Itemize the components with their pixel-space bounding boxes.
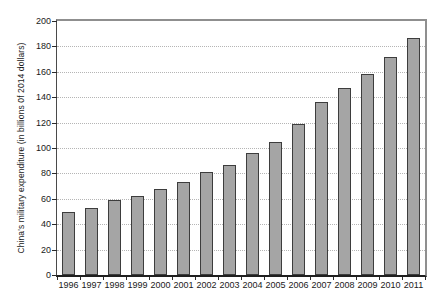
gridline (57, 72, 425, 73)
bar-1997 (85, 208, 98, 275)
y-tick-mark (52, 97, 57, 98)
bar-2005 (269, 142, 282, 275)
x-tick-mark (425, 277, 426, 280)
y-tick-label: 40 (15, 218, 51, 230)
y-tick-mark (52, 72, 57, 73)
y-tick-mark (52, 21, 57, 22)
x-tick-mark (57, 277, 58, 280)
y-tick-label: 200 (15, 15, 51, 27)
y-tick-label: 0 (15, 269, 51, 281)
bar-2011 (407, 38, 420, 275)
bar-2000 (154, 189, 167, 275)
y-tick-label: 180 (15, 40, 51, 52)
bar-2001 (177, 182, 190, 275)
y-tick-mark (52, 148, 57, 149)
x-tick-mark (80, 277, 81, 280)
y-tick-mark (52, 123, 57, 124)
x-tick-mark (195, 277, 196, 280)
bar-2010 (384, 57, 397, 275)
y-tick-label: 100 (15, 142, 51, 154)
bar-1999 (131, 196, 144, 275)
bar-2003 (223, 165, 236, 275)
gridline (57, 46, 425, 47)
bar-1998 (108, 200, 121, 275)
bar-2008 (338, 88, 351, 275)
y-tick-label: 80 (15, 167, 51, 179)
y-tick-mark (52, 173, 57, 174)
x-tick-mark (172, 277, 173, 280)
x-tick-mark (310, 277, 311, 280)
x-tick-mark (218, 277, 219, 280)
bar-chart-figure: China's military expenditure (in billion… (0, 0, 446, 299)
x-tick-label-2011: 2011 (399, 280, 429, 291)
x-tick-mark (103, 277, 104, 280)
x-tick-mark (333, 277, 334, 280)
bar-2006 (292, 124, 305, 275)
x-tick-mark (241, 277, 242, 280)
y-tick-label: 60 (15, 193, 51, 205)
x-tick-mark (356, 277, 357, 280)
y-tick-label: 120 (15, 117, 51, 129)
y-tick-mark (52, 199, 57, 200)
y-tick-mark (52, 224, 57, 225)
bar-2004 (246, 153, 259, 275)
bar-2007 (315, 102, 328, 275)
y-tick-label: 160 (15, 66, 51, 78)
y-tick-label: 140 (15, 91, 51, 103)
y-tick-mark (52, 250, 57, 251)
bar-2002 (200, 172, 213, 275)
x-tick-mark (287, 277, 288, 280)
y-tick-label: 20 (15, 244, 51, 256)
x-tick-mark (402, 277, 403, 280)
x-tick-mark (264, 277, 265, 280)
x-tick-mark (126, 277, 127, 280)
bar-1996 (62, 212, 75, 276)
x-tick-mark (149, 277, 150, 280)
y-tick-mark (52, 275, 57, 276)
bar-2009 (361, 74, 374, 275)
y-tick-mark (52, 46, 57, 47)
x-tick-mark (379, 277, 380, 280)
